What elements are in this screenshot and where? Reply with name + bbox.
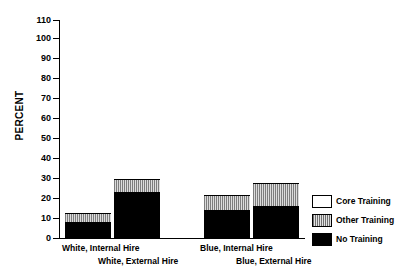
legend-swatch-core-training-icon — [312, 195, 332, 208]
x-label-blue-internal-hire: Blue, Internal Hire — [200, 243, 273, 253]
bar-white-internal-hire[interactable] — [65, 38, 111, 238]
segment-core-training — [114, 37, 160, 179]
x-axis-line — [59, 238, 305, 239]
y-tick-label-10: 10 — [25, 214, 51, 223]
legend-label-core-training: Core Training — [336, 196, 391, 206]
plot-area — [60, 16, 305, 238]
y-tick-label-60: 60 — [25, 114, 51, 123]
legend-item-core-training[interactable]: Core Training — [312, 192, 407, 210]
segment-core-training — [253, 37, 299, 183]
y-tick-label-100: 100 — [25, 34, 51, 43]
bar-white-external-hire[interactable] — [114, 38, 160, 238]
legend-label-no-training: No Training — [336, 234, 383, 244]
segment-other-training — [204, 195, 250, 211]
y-tick-label-0: 0 — [25, 234, 51, 243]
segment-other-training — [114, 179, 160, 193]
segment-no-training — [65, 223, 111, 237]
segment-core-training — [204, 37, 250, 195]
y-axis-title: PERCENT — [14, 76, 25, 156]
segment-core-training — [65, 37, 111, 213]
y-tick-label-50: 50 — [25, 134, 51, 143]
segment-other-training — [65, 213, 111, 223]
y-tick-label-70: 70 — [25, 94, 51, 103]
y-tick-label-90: 90 — [25, 54, 51, 63]
legend-swatch-no-training-icon — [312, 233, 332, 246]
legend-swatch-other-training-icon — [312, 214, 332, 227]
chart-figure: 110 100 90 80 70 60 50 40 30 20 10 — [0, 0, 409, 279]
chart-legend: Core Training Other Training No Training — [312, 192, 407, 249]
y-tick-label-80: 80 — [25, 74, 51, 83]
segment-no-training — [204, 211, 250, 237]
y-tick-label-40: 40 — [25, 154, 51, 163]
y-tick-label-30: 30 — [25, 174, 51, 183]
legend-label-other-training: Other Training — [336, 215, 394, 225]
legend-item-no-training[interactable]: No Training — [312, 230, 407, 248]
x-label-white-internal-hire: White, Internal Hire — [62, 243, 139, 253]
bar-blue-external-hire[interactable] — [253, 38, 299, 238]
legend-item-other-training[interactable]: Other Training — [312, 211, 407, 229]
segment-other-training — [253, 183, 299, 207]
y-tick-label-110: 110 — [25, 16, 51, 25]
bar-blue-internal-hire[interactable] — [204, 38, 250, 238]
segment-no-training — [114, 193, 160, 237]
y-tick-label-20: 20 — [25, 194, 51, 203]
segment-no-training — [253, 207, 299, 237]
x-label-blue-external-hire: Blue, External Hire — [236, 256, 312, 266]
x-label-white-external-hire: White, External Hire — [98, 256, 178, 266]
